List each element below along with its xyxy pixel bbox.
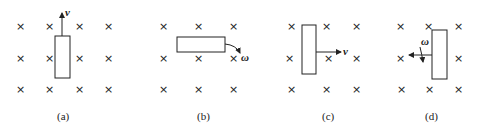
svg-text:×: ×: [322, 83, 331, 96]
caption-b: (b): [197, 110, 210, 123]
svg-text:×: ×: [194, 20, 203, 33]
svg-text:×: ×: [75, 20, 84, 33]
velocity-label: v: [65, 6, 70, 18]
omega-label: ω: [421, 35, 429, 47]
svg-text:×: ×: [396, 52, 405, 65]
svg-text:×: ×: [352, 52, 361, 65]
svg-text:×: ×: [454, 52, 463, 65]
svg-text:×: ×: [322, 20, 331, 33]
panel-c: ××× ××× ××× v (c): [285, 20, 361, 123]
caption-a: (a): [57, 110, 70, 123]
svg-text:×: ×: [287, 20, 296, 33]
velocity-label: v: [343, 45, 348, 57]
svg-text:×: ×: [45, 83, 54, 96]
svg-text:×: ×: [75, 52, 84, 65]
svg-text:×: ×: [287, 83, 296, 96]
loop: [432, 30, 447, 79]
svg-text:×: ×: [159, 20, 168, 33]
svg-text:×: ×: [352, 20, 361, 33]
svg-text:×: ×: [104, 83, 113, 96]
svg-text:×: ×: [229, 52, 238, 65]
caption-c: (c): [322, 110, 335, 123]
svg-text:×: ×: [45, 20, 54, 33]
svg-text:×: ×: [285, 52, 294, 65]
svg-text:×: ×: [397, 83, 406, 96]
svg-text:×: ×: [159, 83, 168, 96]
svg-text:×: ×: [396, 20, 405, 33]
svg-text:×: ×: [454, 83, 463, 96]
panel-d: ××× ×× ××× ω (d): [396, 20, 463, 123]
diagram: ×××× ×××× ×××× v (a) ××× ××× ××× ω (b) ×…: [0, 0, 477, 131]
svg-text:×: ×: [425, 83, 434, 96]
svg-text:×: ×: [75, 83, 84, 96]
svg-text:×: ×: [104, 52, 113, 65]
panel-b: ××× ××× ××× ω (b): [159, 20, 249, 123]
svg-text:×: ×: [454, 20, 463, 33]
svg-text:×: ×: [104, 20, 113, 33]
svg-text:×: ×: [194, 52, 203, 65]
svg-text:×: ×: [45, 52, 54, 65]
loop: [302, 25, 316, 74]
svg-text:×: ×: [324, 52, 333, 65]
svg-text:×: ×: [352, 83, 361, 96]
panel-a: ×××× ×××× ×××× v (a): [16, 6, 113, 123]
svg-text:×: ×: [229, 20, 238, 33]
loop: [177, 37, 225, 52]
svg-text:×: ×: [159, 52, 168, 65]
loop: [55, 36, 70, 78]
caption-d: (d): [425, 110, 438, 123]
svg-text:×: ×: [16, 83, 25, 96]
omega-label: ω: [241, 51, 249, 63]
svg-text:×: ×: [16, 20, 25, 33]
svg-text:×: ×: [194, 83, 203, 96]
svg-text:×: ×: [229, 83, 238, 96]
svg-text:×: ×: [16, 52, 25, 65]
